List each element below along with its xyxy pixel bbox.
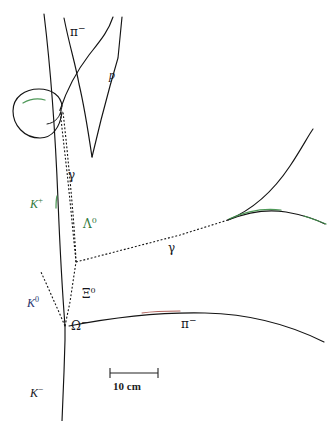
electron-spiral-green-segment bbox=[23, 99, 45, 103]
label-pi-minus-bottom-charge-sign: − bbox=[189, 315, 197, 325]
label-k-minus: K− bbox=[30, 387, 43, 399]
label-pi-minus-bottom: π− bbox=[181, 318, 196, 330]
label-pi-minus-bottom-symbol: π bbox=[181, 317, 189, 331]
gamma-conversion-green-tail bbox=[304, 216, 326, 224]
electron-pair-upper-track bbox=[60, 17, 113, 110]
lambda-zero-neutral-path bbox=[63, 112, 76, 262]
label-lambda-zero-symbol: Λ bbox=[83, 217, 92, 231]
label-omega-minus: Ω− bbox=[71, 320, 89, 332]
proton-decay-track bbox=[92, 17, 122, 157]
k-plus-outgoing-track bbox=[44, 14, 65, 326]
label-k-zero-symbol: K bbox=[27, 296, 35, 310]
particle-track-canvas bbox=[0, 0, 329, 421]
label-xi-zero-superscript: 0 bbox=[90, 286, 95, 295]
label-k-zero: K0 bbox=[27, 297, 39, 309]
label-xi-zero: Ξ0 bbox=[82, 288, 96, 300]
label-proton-symbol: p bbox=[109, 68, 115, 82]
electron-spiral-track bbox=[13, 89, 62, 138]
label-pi-minus-top-charge-sign: − bbox=[78, 23, 86, 33]
k-plus-green-segment bbox=[56, 196, 57, 208]
label-k-plus-charge-sign: + bbox=[38, 195, 43, 205]
label-lambda-zero-superscript: 0 bbox=[92, 216, 97, 225]
label-k-minus-charge-sign: − bbox=[38, 384, 43, 394]
k-minus-incoming-beam bbox=[62, 326, 65, 421]
label-gamma-left-symbol: γ bbox=[68, 168, 75, 182]
label-omega-minus-symbol: Ω bbox=[71, 319, 81, 333]
xi-zero-neutral-path bbox=[65, 262, 76, 326]
label-k-minus-symbol: K bbox=[30, 386, 38, 400]
label-pi-minus-top: π− bbox=[70, 26, 85, 38]
gamma-right-photon-path bbox=[76, 220, 228, 262]
label-pi-minus-top-symbol: π bbox=[70, 25, 78, 39]
label-proton: p bbox=[109, 69, 115, 81]
gamma-left-photon-path bbox=[60, 110, 76, 262]
label-k-zero-superscript: 0 bbox=[35, 295, 39, 304]
gamma-conversion-upper-track bbox=[228, 129, 313, 220]
scale-bar bbox=[110, 368, 158, 378]
label-k-plus: K+ bbox=[30, 198, 43, 210]
label-k-plus-symbol: K bbox=[30, 197, 38, 211]
label-lambda-zero: Λ0 bbox=[83, 218, 97, 230]
label-gamma-right-symbol: γ bbox=[168, 241, 175, 255]
label-omega-minus-charge-sign: − bbox=[81, 317, 89, 327]
bubble-chamber-figure: π−pγK+Λ0γK0Ξ0Ω−π−K− 10 cm bbox=[0, 0, 329, 421]
pi-minus-from-omega-track bbox=[69, 313, 324, 342]
label-gamma-left: γ bbox=[68, 169, 75, 181]
pi-minus-decay-track bbox=[64, 18, 92, 157]
scale-bar-caption: 10 cm bbox=[113, 380, 141, 392]
label-gamma-right: γ bbox=[168, 242, 175, 254]
